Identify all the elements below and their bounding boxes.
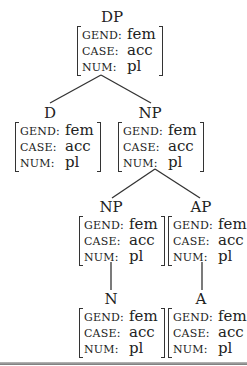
node-label: NP bbox=[81, 198, 141, 216]
feature-name: CASE: bbox=[84, 327, 121, 340]
feature-value: pl bbox=[218, 339, 232, 357]
bottom-rule bbox=[0, 362, 247, 365]
avm-left-bracket bbox=[79, 216, 83, 266]
feature-name: NUM: bbox=[20, 157, 55, 170]
feature-value: pl bbox=[65, 153, 79, 171]
avm-left-bracket bbox=[79, 308, 83, 358]
node-label: A bbox=[171, 290, 231, 308]
feature-name: GEND: bbox=[123, 125, 163, 138]
tree-edge-np1-ap bbox=[155, 169, 200, 198]
tree-edge-np1-np2 bbox=[112, 169, 155, 198]
avm-left-bracket bbox=[168, 216, 172, 266]
feature-name: CASE: bbox=[123, 141, 160, 154]
avm-left-bracket bbox=[118, 122, 122, 172]
feature-value: pl bbox=[127, 57, 141, 75]
feature-value: pl bbox=[129, 247, 143, 265]
node-label: D bbox=[20, 104, 80, 122]
feature-name: NUM: bbox=[82, 61, 117, 74]
avm-right-bracket bbox=[159, 26, 163, 76]
tree-edge-dp-np1 bbox=[101, 75, 151, 103]
feature-name: CASE: bbox=[173, 327, 210, 340]
avm-right-bracket bbox=[161, 308, 165, 358]
node-label: NP bbox=[120, 104, 180, 122]
feature-name: GEND: bbox=[173, 219, 213, 232]
avm-right-bracket bbox=[97, 122, 101, 172]
feature-name: NUM: bbox=[173, 251, 208, 264]
node-label: DP bbox=[82, 8, 142, 26]
node-label: N bbox=[81, 290, 141, 308]
tree-edge-dp-d bbox=[50, 75, 101, 103]
feature-name: GEND: bbox=[84, 311, 124, 324]
feature-value: pl bbox=[218, 247, 232, 265]
avm-right-bracket bbox=[161, 216, 165, 266]
feature-name: NUM: bbox=[84, 343, 119, 356]
node-label: AP bbox=[171, 198, 231, 216]
avm-left-bracket bbox=[15, 122, 19, 172]
feature-value: pl bbox=[168, 153, 182, 171]
feature-name: NUM: bbox=[84, 251, 119, 264]
feature-name: GEND: bbox=[84, 219, 124, 232]
avm-left-bracket bbox=[77, 26, 81, 76]
feature-name: CASE: bbox=[82, 45, 119, 58]
feature-name: CASE: bbox=[20, 141, 57, 154]
feature-value: pl bbox=[129, 339, 143, 357]
feature-name: CASE: bbox=[84, 235, 121, 248]
avm-left-bracket bbox=[168, 308, 172, 358]
avm-right-bracket bbox=[200, 122, 204, 172]
feature-name: GEND: bbox=[20, 125, 60, 138]
feature-name: CASE: bbox=[173, 235, 210, 248]
feature-name: NUM: bbox=[123, 157, 158, 170]
feature-name: GEND: bbox=[82, 29, 122, 42]
feature-name: NUM: bbox=[173, 343, 208, 356]
feature-name: GEND: bbox=[173, 311, 213, 324]
